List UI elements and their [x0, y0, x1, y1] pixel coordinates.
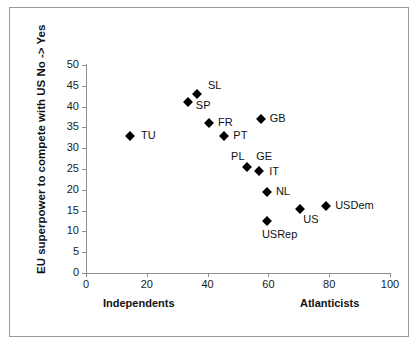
y-tick-mark — [82, 65, 86, 66]
data-point-label: PT — [233, 129, 247, 141]
data-point-label: GB — [270, 112, 286, 124]
y-tick-mark — [82, 190, 86, 191]
y-tick-label: 5 — [57, 245, 79, 257]
y-tick-mark — [82, 252, 86, 253]
x-tick-label: 100 — [375, 278, 405, 290]
x-tick-label: 60 — [253, 278, 283, 290]
x-tick-mark — [147, 273, 148, 277]
x-axis-right-label: Atlanticists — [300, 297, 359, 309]
y-tick-label: 45 — [57, 79, 79, 91]
data-point-label: TU — [141, 129, 156, 141]
x-axis-left-label: Independents — [103, 297, 175, 309]
y-tick-label: 0 — [57, 266, 79, 278]
x-tick-label: 40 — [193, 278, 223, 290]
y-tick-label: 20 — [57, 183, 79, 195]
y-tick-mark — [82, 107, 86, 108]
x-axis-line — [86, 273, 391, 274]
x-tick-mark — [390, 273, 391, 277]
data-point-label: SL — [208, 79, 221, 91]
y-tick-mark — [82, 127, 86, 128]
y-tick-label: 10 — [57, 224, 79, 236]
y-axis-title: EU superpower to compete with US No -> Y… — [35, 34, 47, 274]
x-tick-mark — [208, 273, 209, 277]
data-point-label: USDem — [335, 199, 374, 211]
scatter-chart-figure: EU superpower to compete with US No -> Y… — [0, 0, 419, 346]
y-tick-label: 35 — [57, 120, 79, 132]
x-tick-label: 20 — [132, 278, 162, 290]
y-tick-label: 25 — [57, 162, 79, 174]
y-tick-label: 30 — [57, 141, 79, 153]
x-tick-mark — [329, 273, 330, 277]
y-tick-mark — [82, 148, 86, 149]
data-point-label: GE — [256, 150, 272, 162]
data-point-label: IT — [269, 165, 279, 177]
data-point-label: SP — [196, 99, 211, 111]
y-tick-mark — [82, 86, 86, 87]
x-tick-mark — [86, 273, 87, 277]
data-point-label: FR — [218, 116, 233, 128]
y-tick-mark — [82, 211, 86, 212]
y-tick-mark — [82, 231, 86, 232]
data-point-label: US — [303, 213, 318, 225]
data-point-label: USRep — [262, 228, 297, 240]
x-tick-label: 80 — [314, 278, 344, 290]
x-tick-label: 0 — [71, 278, 101, 290]
y-tick-label: 15 — [57, 204, 79, 216]
data-point-label: NL — [276, 185, 290, 197]
data-point-label: PL — [231, 150, 244, 162]
y-tick-label: 40 — [57, 100, 79, 112]
x-tick-mark — [268, 273, 269, 277]
y-axis-line — [86, 64, 87, 274]
y-tick-mark — [82, 169, 86, 170]
y-tick-label: 50 — [57, 58, 79, 70]
